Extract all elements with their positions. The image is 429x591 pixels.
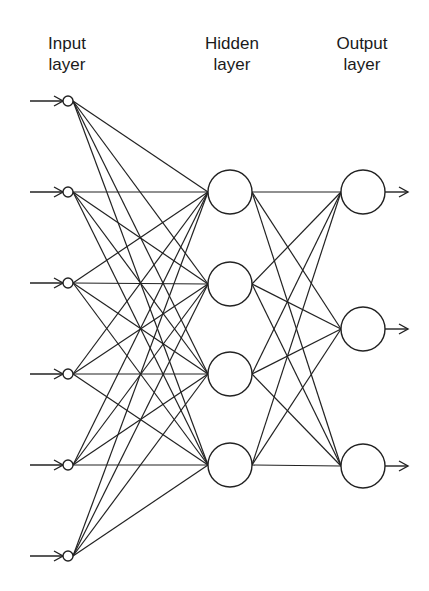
connection-line [252, 465, 341, 466]
input-node-icon [63, 187, 73, 197]
connection-line [73, 284, 208, 556]
connection-line [73, 465, 208, 556]
connection-line [252, 192, 341, 374]
hidden-node-icon [208, 443, 252, 487]
output-node-icon [341, 170, 385, 214]
connection-line [252, 192, 341, 284]
hidden-node-icon [208, 352, 252, 396]
input-node-icon [63, 278, 73, 288]
hidden-node-icon [208, 170, 252, 214]
connection-line [252, 284, 341, 329]
connections [73, 101, 341, 556]
hidden-node-icon [208, 262, 252, 306]
connection-line [252, 284, 341, 466]
input-node-icon [63, 460, 73, 470]
connection-line [252, 374, 341, 466]
connection-line [252, 329, 341, 374]
nodes [63, 96, 385, 561]
output-node-icon [341, 444, 385, 488]
connection-line [252, 192, 341, 329]
input-node-icon [63, 551, 73, 561]
connection-line [73, 101, 208, 192]
connection-line [252, 329, 341, 465]
neural-network-diagram [0, 0, 429, 591]
input-node-icon [63, 369, 73, 379]
input-node-icon [63, 96, 73, 106]
output-node-icon [341, 307, 385, 351]
